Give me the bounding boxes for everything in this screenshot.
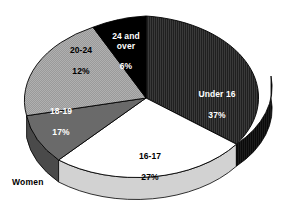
pie-chart: Under 16 37% 16-17 27% 18-19 17% 20-24 1…	[0, 0, 292, 224]
pie-chart-graphic	[0, 0, 292, 224]
chart-caption-women: Women	[12, 177, 44, 187]
